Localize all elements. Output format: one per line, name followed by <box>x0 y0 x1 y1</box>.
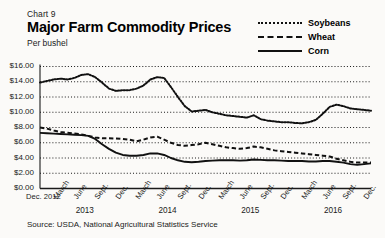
x-axis-year-label: 2013 <box>65 206 105 215</box>
chart-plot-area: $0.00$2.00$4.00$6.00$8.00$10.00$12.00$14… <box>0 0 385 238</box>
x-axis-year-label: 2015 <box>230 206 270 215</box>
y-axis-tick-label: $12.00 <box>0 92 34 101</box>
y-axis-tick-label: $0.00 <box>0 183 34 192</box>
y-axis-tick-label: $6.00 <box>0 137 34 146</box>
x-axis-year-label: 2014 <box>148 206 188 215</box>
chart-card: Chart 9 Major Farm Commodity Prices Per … <box>0 0 385 238</box>
y-axis-tick-label: $14.00 <box>0 76 34 85</box>
y-axis-tick-label: $8.00 <box>0 122 34 131</box>
y-axis-tick-label: $2.00 <box>0 168 34 177</box>
chart-svg <box>0 0 385 238</box>
series-line-wheat <box>40 128 371 163</box>
source-note: Source: USDA, National Agricultural Stat… <box>27 220 218 229</box>
y-axis-tick-label: $16.00 <box>0 61 34 70</box>
y-axis-tick-label: $4.00 <box>0 153 34 162</box>
x-axis-year-label: 2016 <box>313 206 353 215</box>
series-line-corn <box>40 133 371 165</box>
y-axis-tick-label: $10.00 <box>0 107 34 116</box>
